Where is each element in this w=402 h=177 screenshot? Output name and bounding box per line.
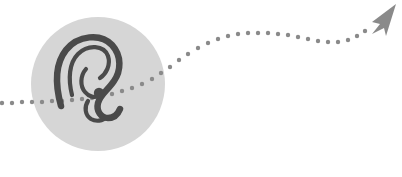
trail-dot [363, 29, 367, 33]
trail-dot [276, 32, 280, 36]
trail-dot [110, 92, 114, 96]
trail-dot [159, 71, 163, 75]
trail-dot [130, 86, 134, 90]
trail-dot [70, 98, 74, 102]
trail-dot [236, 32, 240, 36]
ear-tragus-dot [94, 88, 104, 98]
trail-dot [256, 31, 260, 35]
trail-dot [266, 31, 270, 35]
trail-dot [355, 34, 359, 38]
illustration-canvas [0, 0, 402, 177]
trail-dot [326, 40, 330, 44]
trail-dot [296, 35, 300, 39]
trail-dot [206, 41, 210, 45]
trail-dot [120, 89, 124, 93]
trail-dot [140, 82, 144, 86]
trail-dot [20, 100, 24, 104]
trail-dot [80, 97, 84, 101]
trail-dot [346, 38, 350, 42]
trail-dot [186, 52, 190, 56]
scene-svg [0, 0, 402, 177]
trail-dot [50, 99, 54, 103]
trail-dot [177, 58, 181, 62]
trail-dot [336, 40, 340, 44]
trail-dot [30, 100, 34, 104]
trail-dot [0, 101, 4, 105]
arrowhead-icon [372, 4, 396, 36]
trail-dot [316, 39, 320, 43]
trail-dot [286, 33, 290, 37]
trail-dot [246, 31, 250, 35]
trail-dot [306, 37, 310, 41]
trail-dot [40, 100, 44, 104]
trail-dot [10, 101, 14, 105]
trail-dot [196, 46, 200, 50]
trail-dot [226, 34, 230, 38]
trail-dot [168, 65, 172, 69]
trail-dot [216, 37, 220, 41]
trail-dot [150, 77, 154, 81]
